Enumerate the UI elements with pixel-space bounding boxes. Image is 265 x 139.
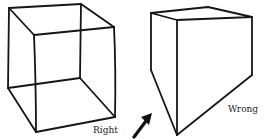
arrow-up-right-icon bbox=[134, 113, 152, 137]
correct-cube bbox=[8, 4, 115, 132]
label-right: Right bbox=[93, 125, 118, 135]
label-wrong: Wrong bbox=[228, 104, 258, 114]
perspective-diagram: Right Wrong bbox=[0, 0, 265, 139]
incorrect-box bbox=[151, 7, 252, 135]
